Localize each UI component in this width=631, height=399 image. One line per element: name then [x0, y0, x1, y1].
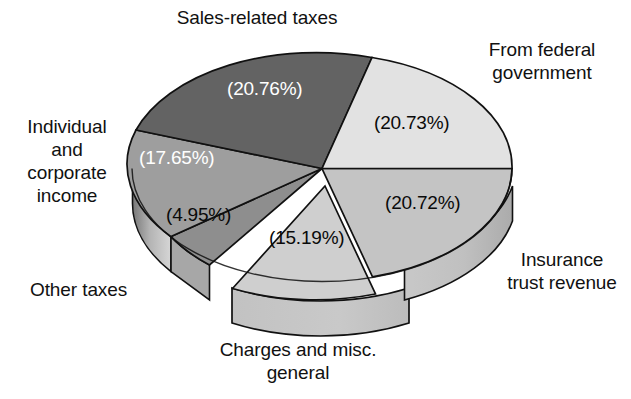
slice-label-insurance-trust-revenue: Insurance trust revenue: [494, 248, 630, 294]
pie-chart: Sales-related taxes From federal governm…: [0, 0, 631, 399]
slice-label-from-federal-government: From federal government: [462, 38, 622, 84]
slice-value-individual-corporate-income: (17.65%): [139, 147, 215, 168]
slice-label-other-taxes: Other taxes: [30, 278, 190, 301]
slice-value-other-taxes: (4.95%): [166, 204, 231, 225]
slice-value-sales-related-taxes: (20.76%): [227, 78, 303, 99]
slice-label-individual-corporate-income: Individual and corporate income: [8, 115, 126, 207]
slice-label-charges-and-misc-general: Charges and misc. general: [186, 338, 410, 384]
slice-value-insurance-trust-revenue: (20.72%): [385, 192, 461, 213]
slice-value-charges-and-misc-general: (15.19%): [269, 227, 345, 248]
slice-value-from-federal-government: (20.73%): [374, 112, 450, 133]
slice-label-sales-related-taxes: Sales-related taxes: [152, 6, 362, 29]
